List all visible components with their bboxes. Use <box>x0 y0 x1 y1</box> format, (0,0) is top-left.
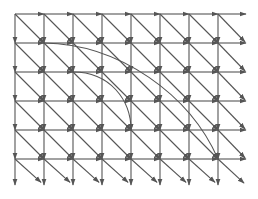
diagonal-arrow <box>131 130 160 159</box>
diagonal-arrow <box>189 43 218 72</box>
diagonal-arrow <box>189 159 215 182</box>
diagonal-arrow <box>189 14 218 43</box>
grid-edges <box>15 14 246 185</box>
diagonal-arrow <box>44 14 73 43</box>
diagonal-arrow <box>73 159 99 182</box>
diagonal-arrow <box>160 72 189 101</box>
diagonal-arrow <box>131 101 160 130</box>
diagonal-arrow <box>218 101 245 129</box>
diagonal-arrow <box>218 159 244 183</box>
grid-graph-diagram <box>0 0 258 199</box>
diagonal-arrow <box>44 159 70 182</box>
diagonal-arrow <box>44 72 73 101</box>
diagonal-arrow <box>73 130 102 159</box>
diagonal-arrow <box>131 43 160 72</box>
diagonal-arrow <box>102 72 131 101</box>
diagonal-arrow <box>73 14 102 43</box>
diagonal-arrow <box>15 72 44 101</box>
diagonal-arrow <box>44 43 73 72</box>
diagonal-arrow <box>15 43 44 72</box>
diagonal-arrow <box>160 159 186 182</box>
diagonal-arrow <box>131 72 160 101</box>
diagonal-arrow <box>131 14 160 43</box>
diagonal-arrow <box>102 14 131 43</box>
diagonal-arrow <box>160 130 189 159</box>
diagonal-arrow <box>218 14 245 42</box>
diagonal-arrow <box>218 130 245 158</box>
diagonal-arrow <box>15 130 44 159</box>
diagonal-arrow <box>44 130 73 159</box>
diagonal-arrow <box>131 159 157 182</box>
diagonal-arrow <box>44 101 73 130</box>
diagonal-arrow <box>189 130 218 159</box>
diagonal-arrow <box>15 14 44 43</box>
diagonal-arrow <box>160 14 189 43</box>
diagonal-arrow <box>102 130 131 159</box>
diagonal-arrow <box>218 43 245 71</box>
diagonal-arrow <box>218 72 245 100</box>
diagonal-arrow <box>160 43 189 72</box>
diagonal-arrow <box>102 43 131 72</box>
diagonal-arrow <box>189 72 218 101</box>
diagonal-arrow <box>73 101 102 130</box>
diagonal-arrow <box>189 101 218 130</box>
diagonal-arrow <box>102 159 128 182</box>
diagonal-arrow <box>73 43 102 72</box>
diagonal-arrow <box>15 101 44 130</box>
diagonal-arrow <box>160 101 189 130</box>
diagonal-arrow <box>15 159 41 182</box>
